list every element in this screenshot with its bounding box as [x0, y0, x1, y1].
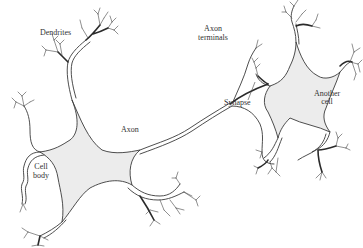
left-cell-body	[40, 100, 140, 222]
dendrite-branch	[38, 236, 40, 245]
dendrite-left	[24, 106, 40, 152]
neuron-diagram: Dendrites Axon terminals Axon Synapse Ce…	[0, 0, 363, 248]
dendrite-lower-inner	[44, 220, 66, 238]
dendrite-lower-right	[132, 184, 180, 196]
label-axon-terminals-2: terminals	[198, 33, 228, 42]
right-dendrite-twig	[350, 44, 362, 80]
right-dendrite-branch	[296, 25, 312, 27]
dendrite-upper-trunk-inner	[71, 42, 90, 98]
dendrite-twig	[12, 92, 34, 108]
right-neuron	[252, 0, 362, 180]
right-dendrite-branch	[258, 160, 268, 168]
dendrite-branch	[58, 52, 68, 62]
label-another-cell-2: cell	[321, 97, 333, 106]
label-cell-body-1: Cell	[34, 162, 48, 171]
dendrite-twig	[80, 8, 118, 38]
right-dendrite-upper-right	[340, 62, 350, 72]
dendrite-twig	[146, 172, 200, 226]
axon	[140, 103, 230, 150]
right-dendrite-top-inner	[296, 24, 299, 44]
axon-terminal-twig	[256, 40, 262, 48]
right-dendrite-lower-left	[264, 138, 278, 158]
dendrite-twig	[20, 204, 26, 212]
label-axon: Axon	[121, 125, 139, 134]
dendrite-upper-trunk	[67, 40, 86, 100]
label-synapse: Synapse	[224, 98, 251, 107]
dendrite-twig	[42, 34, 64, 56]
label-axon-terminals-1: Axon	[204, 24, 222, 33]
right-dendrite-branch	[318, 146, 336, 172]
dendrite-twig	[22, 228, 48, 246]
label-cell-body-2: body	[33, 171, 49, 180]
right-dendrite-twig	[316, 132, 350, 180]
axon-terminal-twig	[256, 150, 262, 158]
label-dendrites: Dendrites	[40, 28, 71, 37]
right-dendrite-twig	[252, 58, 260, 76]
dendrite-branch	[86, 25, 108, 40]
right-dendrite-top	[291, 6, 296, 42]
